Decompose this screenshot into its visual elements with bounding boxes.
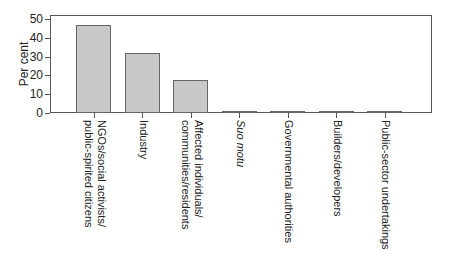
y-tick-label: 30	[17, 50, 43, 64]
y-tick	[45, 94, 50, 95]
x-tick-label: NGOs/social activists/ public-spirited c…	[82, 120, 108, 228]
x-tick-label: Public-sector undertakings	[379, 120, 392, 250]
x-tick	[142, 113, 143, 118]
y-tick	[45, 38, 50, 39]
x-tick	[94, 113, 95, 118]
x-tick-label: Builders/developers	[331, 120, 344, 217]
y-tick	[45, 57, 50, 58]
bar	[76, 25, 111, 113]
y-tick-label: 50	[17, 12, 43, 26]
y-tick-label: 0	[17, 106, 43, 120]
y-tick-label: 20	[17, 68, 43, 82]
y-tick	[45, 19, 50, 20]
x-tick	[336, 113, 337, 118]
x-tick	[239, 113, 240, 118]
bar-chart: Per cent 01020304050 NGOs/social activis…	[0, 0, 449, 258]
bar	[173, 80, 208, 113]
y-tick	[45, 75, 50, 76]
bar	[125, 53, 160, 113]
x-tick-label: Affected individuals/ communities/reside…	[179, 120, 205, 229]
x-tick-label: Governmental authorities	[282, 120, 295, 243]
x-tick-label: Suo motu	[234, 120, 247, 167]
y-tick-label: 40	[17, 31, 43, 45]
x-tick	[288, 113, 289, 118]
x-tick-label: Industry	[137, 120, 150, 159]
y-tick	[45, 113, 50, 114]
x-tick	[191, 113, 192, 118]
y-tick-label: 10	[17, 87, 43, 101]
x-tick	[385, 113, 386, 118]
